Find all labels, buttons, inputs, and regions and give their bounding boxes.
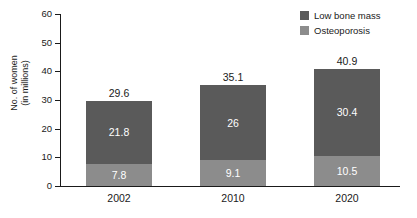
bar-segment-osteoporosis: 7.8	[86, 164, 152, 186]
y-axis-tick-label: 40	[8, 66, 52, 76]
bar-segment-value-label: 7.8	[86, 169, 152, 181]
bar-segment-low-bone-mass: 26	[200, 85, 266, 160]
bar-segment-low-bone-mass: 21.8	[86, 101, 152, 163]
stacked-bar: 9.126	[200, 85, 266, 186]
bar-segment-low-bone-mass: 30.4	[314, 69, 380, 156]
bar-segment-osteoporosis: 9.1	[200, 160, 266, 186]
bar-segment-value-label: 30.4	[314, 106, 380, 118]
stacked-bar-chart: No. of women (in millions) 0102030405060…	[0, 0, 417, 218]
legend-item[interactable]: Osteoporosis	[300, 24, 381, 36]
bar-total-label: 35.1	[200, 71, 266, 83]
x-axis-category-label: 2020	[314, 192, 380, 204]
x-axis-line	[60, 186, 400, 187]
bar-segment-osteoporosis: 10.5	[314, 156, 380, 186]
x-axis-category-label: 2002	[86, 192, 152, 204]
legend-item[interactable]: Low bone mass	[300, 9, 381, 21]
bar-group: 10.530.440.9	[314, 69, 380, 186]
chart-legend: Low bone massOsteoporosis	[300, 9, 381, 39]
legend-swatch-icon	[300, 26, 309, 35]
bar-group: 7.821.829.6	[86, 101, 152, 186]
stacked-bar: 10.530.4	[314, 69, 380, 186]
bar-group: 9.12635.1	[200, 85, 266, 186]
y-axis-tick-label: 10	[8, 152, 52, 162]
bar-segment-value-label: 10.5	[314, 165, 380, 177]
plot-area: 7.821.829.69.12635.110.530.440.9	[61, 14, 400, 186]
x-axis-category-label: 2010	[200, 192, 266, 204]
bar-segment-value-label: 21.8	[86, 126, 152, 138]
bar-segment-value-label: 26	[200, 117, 266, 129]
stacked-bar: 7.821.8	[86, 101, 152, 186]
bar-total-label: 29.6	[86, 87, 152, 99]
y-axis-tick-label: 60	[8, 9, 52, 19]
bar-total-label: 40.9	[314, 55, 380, 67]
legend-swatch-icon	[300, 11, 309, 20]
y-axis-tick-label: 20	[8, 124, 52, 134]
legend-label: Low bone mass	[314, 10, 381, 21]
y-axis-tick-label: 0	[8, 181, 52, 191]
y-axis-tick-label: 30	[8, 95, 52, 105]
legend-label: Osteoporosis	[314, 25, 370, 36]
bar-segment-value-label: 9.1	[200, 167, 266, 179]
y-axis-tick-label: 50	[8, 38, 52, 48]
